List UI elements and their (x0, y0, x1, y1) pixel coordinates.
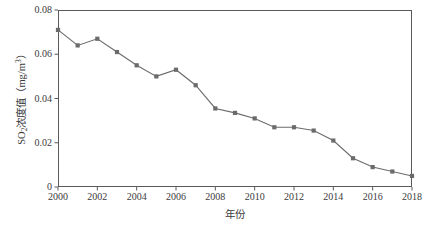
data-point-marker: 2000: 0.071 (56, 28, 60, 32)
y-axis-tick-label: 0.06 (0, 49, 52, 59)
y-axis-tick-label: 0.08 (0, 5, 52, 15)
data-point-marker: 2006: 0.053 (174, 68, 178, 72)
x-axis-tick-label: 2018 (392, 190, 424, 204)
data-point-marker: 2017: 0.007 (390, 169, 394, 173)
data-point-marker: 2008: 0.0355 (213, 106, 217, 110)
data-point-marker: 2005: 0.05 (154, 74, 158, 78)
x-axis-tick-label: 2010 (235, 190, 275, 204)
series-line (58, 30, 412, 176)
x-axis-tick-label: 2012 (274, 190, 314, 204)
data-point-marker: 2002: 0.067 (95, 37, 99, 41)
x-axis-tick-label: 2016 (353, 190, 393, 204)
x-axis-title: 年份 (58, 206, 412, 221)
x-axis-tick-label: 2014 (313, 190, 353, 204)
data-point-marker: 2016: 0.009 (371, 165, 375, 169)
x-axis-tick-label: 2002 (77, 190, 117, 204)
data-point-marker: 2010: 0.031 (253, 116, 257, 120)
data-point-marker: 2015: 0.013 (351, 156, 355, 160)
so2-concentration-line-chart: SO2浓度值（mg/m3） 00.020.040.060.08 2000: 0.… (0, 0, 424, 230)
data-point-marker: 2018: 0.005 (410, 174, 414, 178)
data-point-marker: 2004: 0.055 (135, 63, 139, 67)
data-point-marker: 2007: 0.046 (194, 83, 198, 87)
data-point-marker: 2012: 0.027 (292, 125, 296, 129)
data-point-marker: 2014: 0.021 (331, 138, 335, 142)
data-point-marker: 2003: 0.061 (115, 50, 119, 54)
x-axis-tick-label: 2008 (195, 190, 235, 204)
x-axis-tick-label: 2000 (38, 190, 78, 204)
x-axis-tick-labels: 2000200220042006200820102012201420162018 (0, 190, 424, 206)
x-axis-tick-label: 2006 (156, 190, 196, 204)
y-axis-tick-label: 0.04 (0, 94, 52, 104)
x-axis-tick-label: 2004 (117, 190, 157, 204)
data-series-plot: 2000: 0.0712001: 0.0642002: 0.0672003: 0… (58, 10, 412, 187)
data-point-marker: 2001: 0.064 (76, 43, 80, 47)
data-point-marker: 2009: 0.0335 (233, 111, 237, 115)
y-axis-tick-label: 0.02 (0, 138, 52, 148)
data-point-marker: 2013: 0.0255 (312, 128, 316, 132)
data-point-marker: 2011: 0.027 (272, 125, 276, 129)
